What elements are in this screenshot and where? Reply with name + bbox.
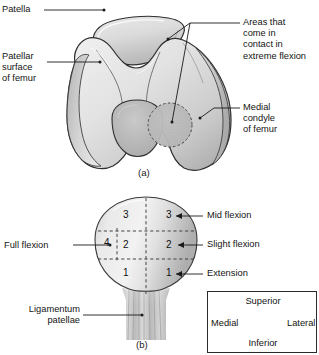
panel-b-group (73, 197, 203, 340)
label-mid-flexion: Mid flexion (207, 210, 251, 221)
zone-4-full-flexion: 4 (104, 237, 110, 248)
figure-root: Patella Patellar surface of femur Areas … (0, 0, 319, 355)
orientation-superior: Superior (227, 296, 299, 306)
label-medial-condyle-of-femur: Medial condyle of femur (243, 102, 277, 136)
contact-area-circle-femur (148, 103, 192, 147)
zone-3-medial: 3 (123, 209, 129, 220)
label-patellar-surface-of-femur: Patellar surface of femur (2, 51, 36, 85)
label-slight-flexion: Slight flexion (207, 239, 260, 250)
label-patella: Patella (2, 4, 30, 15)
orientation-medial: Medial (211, 318, 238, 328)
label-full-flexion: Full flexion (4, 240, 48, 251)
orientation-inferior: Inferior (227, 338, 299, 348)
label-ligamentum-patellae: Ligamentum patellae (4, 304, 80, 326)
zone-2-lateral: 2 (166, 239, 172, 250)
zone-1-medial: 1 (123, 267, 129, 278)
panel-a-id: (a) (138, 167, 150, 178)
orientation-lateral: Lateral (287, 318, 315, 328)
label-extension: Extension (207, 268, 248, 279)
panel-a-group (44, 9, 240, 171)
panel-b-id: (b) (136, 339, 148, 350)
zone-2-medial: 2 (123, 239, 129, 250)
label-areas-contact-extreme-flexion: Areas that come in contact in extreme fl… (243, 17, 306, 62)
zone-3-lateral: 3 (166, 209, 172, 220)
zone-1-lateral: 1 (166, 267, 172, 278)
